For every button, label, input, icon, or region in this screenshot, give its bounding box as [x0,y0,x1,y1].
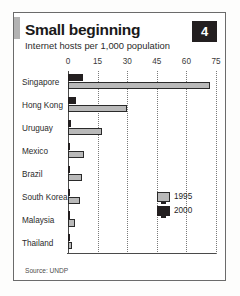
bar-1995-south-korea [68,189,70,196]
category-label-malaysia: Malaysia [22,215,54,224]
source-note: Source: UNDP [25,267,68,274]
corner-tab-decoration [14,17,20,39]
bar-2000-thailand [68,242,72,249]
legend-item-2000: 2000 [157,204,213,218]
legend-label: 1995 [174,193,192,201]
bar-1995-singapore [68,74,83,81]
chart-card: 4 Small beginning Internet hosts per 1,0… [13,12,226,281]
bar-2000-mexico [68,151,84,158]
category-label-brazil: Brazil [22,170,42,179]
x-tick-label-0: 0 [66,57,71,66]
bar-2000-south-korea [68,197,80,204]
figure-number-badge: 4 [192,21,217,42]
chart-subtitle: Internet hosts per 1,000 population [25,41,217,51]
x-tick-label-45: 45 [152,57,161,66]
bar-2000-singapore [68,82,210,89]
x-tick-label-75: 75 [211,57,220,66]
bar-rows: SingaporeHong KongUruguayMexicoBrazilSou… [14,71,227,254]
legend-item-1995: 1995 [157,190,213,204]
bar-2000-malaysia [68,219,75,226]
category-label-uruguay: Uruguay [22,124,53,133]
chart-row: Brazil [14,163,227,186]
chart-page: 4 Small beginning Internet hosts per 1,0… [0,0,240,296]
x-tick-label-60: 60 [182,57,191,66]
bar-1995-brazil [68,166,70,173]
chart-row: Singapore [14,71,227,94]
bar-1995-uruguay [68,120,71,127]
bar-2000-uruguay [68,128,102,135]
x-tick-label-15: 15 [93,57,102,66]
x-axis-tick-labels: 01530456075 [14,57,227,71]
category-label-mexico: Mexico [22,147,48,156]
category-label-hong-kong: Hong Kong [22,101,63,110]
monitor-icon [157,192,170,202]
category-label-thailand: Thailand [22,238,53,247]
chart-row: Mexico [14,140,227,163]
bar-2000-hong-kong [68,105,127,112]
chart-row: Uruguay [14,117,227,140]
bar-1995-thailand [68,234,70,241]
x-tick-label-30: 30 [123,57,132,66]
legend-label: 2000 [174,207,192,215]
chart-row: Hong Kong [14,94,227,117]
chart-row: Thailand [14,231,227,254]
plot-area: 01530456075 SingaporeHong KongUruguayMex… [14,57,227,265]
monitor-icon [157,206,170,216]
chart-legend: 19952000 [157,190,213,218]
bar-1995-malaysia [68,211,70,218]
bar-1995-mexico [68,143,70,150]
chart-title: Small beginning [25,22,217,38]
category-label-south-korea: South Korea [22,192,68,201]
bar-1995-hong-kong [68,97,76,104]
category-label-singapore: Singapore [22,78,59,87]
bar-2000-brazil [68,174,82,181]
chart-header: 4 Small beginning Internet hosts per 1,0… [25,22,217,52]
